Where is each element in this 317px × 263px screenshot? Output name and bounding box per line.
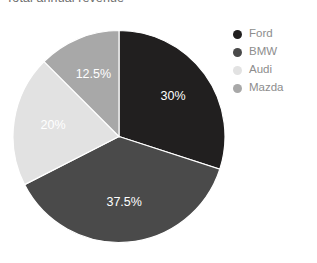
legend-item-bmw[interactable]: BMW (233, 44, 313, 60)
pie-svg: 30%37.5%20%12.5% (13, 20, 225, 253)
legend-item-ford[interactable]: Ford (233, 26, 313, 42)
legend-swatch-icon (233, 48, 242, 57)
legend-swatch-icon (233, 66, 242, 75)
legend-swatch-icon (233, 30, 242, 39)
pie-chart: Total annual revenue 30%37.5%20%12.5% Fo… (0, 0, 317, 263)
legend-item-label: Mazda (249, 82, 284, 94)
pie-slice-label: 37.5% (106, 195, 141, 209)
pie-slice-label: 30% (160, 89, 185, 103)
legend-item-label: Audi (249, 64, 272, 76)
legend-item-label: Ford (249, 28, 273, 40)
pie-slice-label: 20% (40, 118, 65, 132)
legend-item-label: BMW (249, 46, 277, 58)
pie-slice-label: 12.5% (76, 67, 111, 81)
pie-plot-area: 30%37.5%20%12.5% (13, 20, 225, 253)
legend-item-mazda[interactable]: Mazda (233, 80, 313, 96)
legend-swatch-icon (233, 84, 242, 93)
chart-legend: FordBMWAudiMazda (233, 26, 313, 98)
legend-item-audi[interactable]: Audi (233, 62, 313, 78)
pie-slice-group (13, 31, 225, 243)
chart-title: Total annual revenue (6, 0, 124, 5)
